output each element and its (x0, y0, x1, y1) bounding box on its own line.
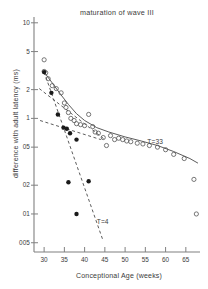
y-tick-label: 1 (26, 114, 30, 121)
data-point-open (129, 140, 133, 144)
filled-circle-points (42, 70, 91, 216)
data-point-open (42, 58, 46, 62)
y-tick-label: 01 (23, 210, 30, 217)
data-point-open (141, 142, 145, 146)
data-point-open (66, 110, 70, 114)
figure-maturation-of-wave-iii: maturation of wave III difference with a… (0, 0, 208, 289)
open-circle-points (42, 58, 198, 216)
x-tick-marks (44, 247, 186, 252)
data-point-filled (42, 70, 46, 74)
data-point-filled (49, 91, 53, 95)
data-point-open (108, 134, 112, 138)
data-point-filled (65, 126, 69, 130)
data-point-filled (74, 212, 78, 216)
annotation-label: T=4 (97, 218, 109, 225)
plot-canvas (0, 0, 208, 289)
data-point-open (104, 143, 108, 147)
data-point-filled (68, 131, 72, 135)
fit-line (39, 89, 105, 140)
data-point-filled (86, 179, 90, 183)
data-point-open (87, 112, 91, 116)
data-point-open (135, 141, 139, 145)
data-point-open (62, 101, 66, 105)
data-point-open (194, 212, 198, 216)
data-point-open (121, 137, 125, 141)
annotation-label: T=33 (147, 138, 163, 145)
y-tick-label: 05 (23, 143, 30, 150)
data-point-filled (74, 137, 78, 141)
x-tick-label: 65 (174, 256, 198, 263)
data-point-open (117, 136, 121, 140)
data-point-open (74, 122, 78, 126)
data-point-open (172, 152, 176, 156)
data-point-filled (66, 180, 70, 184)
data-point-open (125, 139, 129, 143)
fit-line (44, 72, 103, 241)
y-tick-label: 2 (26, 86, 30, 93)
data-point-open (192, 177, 196, 181)
data-point-open (112, 137, 116, 141)
fit-line (44, 72, 198, 163)
data-point-filled (56, 112, 60, 116)
fit-line (40, 121, 101, 140)
y-tick-label: 005 (19, 239, 30, 246)
y-tick-label: 02 (23, 181, 30, 188)
data-point-open (182, 156, 186, 160)
y-tick-label: 10 (23, 19, 30, 26)
data-point-open (78, 123, 82, 127)
y-tick-label: 5 (26, 48, 30, 55)
